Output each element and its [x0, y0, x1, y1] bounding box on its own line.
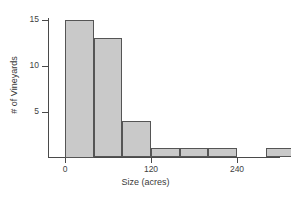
- y-axis-tick-label: 15: [20, 15, 39, 24]
- y-axis-tick-label: 5: [20, 107, 39, 116]
- x-axis-tick-label: 0: [63, 165, 68, 174]
- histogram-bar: [208, 148, 237, 157]
- histogram-bar: [180, 148, 209, 157]
- y-axis-title: # of Vineyards: [9, 25, 19, 145]
- histogram-bar: [122, 121, 151, 158]
- plot-area: 51015 0120240 Size (acres) # of Vineyard…: [0, 0, 291, 197]
- x-axis-tick: [151, 158, 152, 163]
- y-axis-tick: [42, 66, 49, 67]
- x-axis-title: Size (acres): [0, 177, 291, 187]
- histogram-bar: [151, 148, 180, 157]
- histogram-bar: [94, 38, 123, 158]
- y-axis-line: [48, 18, 49, 158]
- y-axis-tick: [42, 20, 49, 21]
- histogram-chart: 51015 0120240 Size (acres) # of Vineyard…: [0, 0, 291, 197]
- histogram-bar: [65, 20, 94, 158]
- x-axis-tick-label: 240: [230, 165, 244, 174]
- y-axis-tick-label: 10: [20, 61, 39, 70]
- y-axis-tick: [42, 112, 49, 113]
- x-axis-tick-label: 120: [144, 165, 158, 174]
- x-axis-tick: [65, 158, 66, 163]
- x-axis-tick: [237, 158, 238, 163]
- histogram-bar: [266, 148, 291, 157]
